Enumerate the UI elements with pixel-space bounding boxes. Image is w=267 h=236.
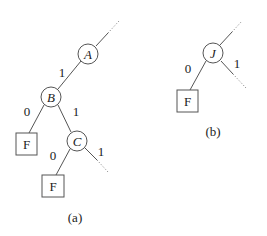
node-j: J: [203, 43, 223, 63]
edge-label-b-c: 1: [73, 104, 80, 119]
edge-j-to-subtree: [221, 61, 233, 74]
node-b-label: B: [47, 90, 55, 105]
edge-label-b-f1: 0: [24, 104, 31, 119]
leaf-f2-label: F: [49, 179, 56, 194]
edge-label-c-f2: 0: [50, 148, 57, 163]
subfigure-b: 0 1 J F (b): [177, 21, 246, 139]
edge-label-j-subtree: 1: [234, 56, 241, 71]
node-b: B: [41, 87, 61, 107]
leaf-f1: F: [16, 133, 37, 155]
edge-label-c-subtree: 1: [98, 144, 105, 159]
node-a-label: A: [83, 47, 92, 62]
edge-c-to-f2: [56, 149, 70, 175]
edge-parent-to-a-dotted: [108, 21, 119, 33]
edge-j-to-f3: [190, 61, 206, 90]
node-a: A: [78, 44, 98, 64]
edge-c-to-subtree: [85, 148, 97, 160]
subfigure-a: 1 0 1 0 1 A B C F F (a): [16, 21, 119, 225]
caption-a: (a): [68, 210, 82, 225]
node-c-label: C: [73, 134, 82, 149]
edge-parent-to-a: [96, 33, 108, 46]
leaf-f1-label: F: [23, 137, 30, 152]
edge-label-a-b: 1: [59, 65, 66, 80]
leaf-f3: F: [177, 90, 198, 112]
leaf-f2: F: [42, 175, 64, 197]
caption-b: (b): [205, 124, 220, 139]
edge-label-j-f3: 0: [185, 61, 192, 76]
trie-diagram: 1 0 1 0 1 A B C F F (a): [0, 0, 267, 236]
edge-b-to-f1: [29, 105, 44, 133]
leaf-f3-label: F: [184, 94, 191, 109]
edge-b-to-c: [58, 105, 71, 132]
edge-j-to-subtree-dotted: [233, 74, 246, 88]
edge-parent-to-j: [220, 32, 232, 45]
node-c: C: [67, 131, 87, 151]
edge-c-to-subtree-dotted: [97, 160, 108, 172]
edge-parent-to-j-dotted: [232, 21, 242, 32]
